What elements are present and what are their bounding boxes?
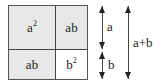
double-arrow-icon-a bbox=[102, 6, 103, 49]
cell-label: ab bbox=[26, 57, 38, 73]
cell-ab-top: ab bbox=[56, 6, 87, 50]
cell-ab-bottom: ab bbox=[9, 50, 56, 79]
double-arrow-icon-b bbox=[102, 52, 103, 79]
square-diagram: a2 ab ab b2 bbox=[8, 5, 88, 80]
dimension-label-a: a bbox=[107, 20, 113, 33]
dimension-label-a-plus-b: a+b bbox=[133, 36, 153, 49]
dimension-label-b: b bbox=[108, 58, 115, 71]
cell-label: ab bbox=[65, 20, 77, 36]
cell-a-squared: a2 bbox=[9, 6, 56, 50]
cell-label: b2 bbox=[66, 57, 77, 73]
double-arrow-icon-a-plus-b bbox=[128, 6, 129, 79]
cell-label: a2 bbox=[27, 20, 37, 36]
cell-b-squared: b2 bbox=[56, 50, 87, 79]
